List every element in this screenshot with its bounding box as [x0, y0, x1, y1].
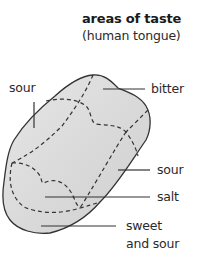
label-bitter: bitter: [151, 80, 184, 98]
label-sweet-line2: and sour: [126, 235, 179, 253]
label-sweet-line1: sweet: [126, 217, 179, 235]
label-sour-top: sour: [9, 79, 35, 97]
label-salt: salt: [157, 188, 179, 206]
label-sweet-and-sour: sweet and sour: [126, 217, 179, 253]
label-sour-side: sour: [157, 161, 183, 179]
